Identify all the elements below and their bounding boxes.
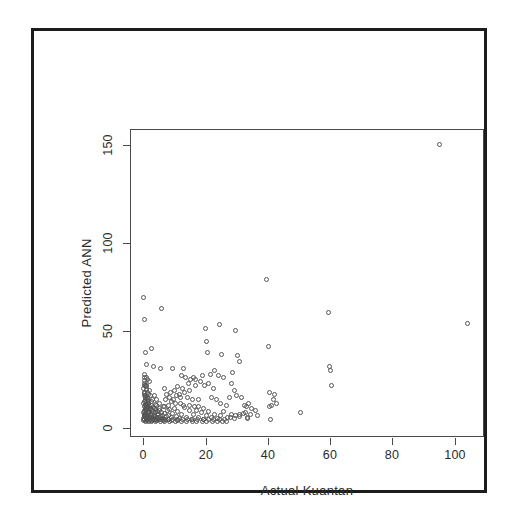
scatter-point xyxy=(266,344,271,349)
scatter-point xyxy=(190,397,195,402)
plot-panel xyxy=(130,129,484,437)
scatter-point xyxy=(187,403,192,408)
x-tick-mark-20 xyxy=(206,438,207,445)
scatter-point xyxy=(219,352,224,357)
scatter-point xyxy=(221,409,226,414)
scatter-point xyxy=(206,409,211,414)
scatter-point xyxy=(168,390,173,395)
scatter-point xyxy=(216,373,221,378)
scatter-point xyxy=(145,399,150,404)
x-tick-label-100: 100 xyxy=(444,448,465,462)
scatter-point xyxy=(163,397,168,402)
scatter-point xyxy=(144,383,149,388)
x-tick-label-20: 20 xyxy=(199,448,213,462)
scatter-point xyxy=(235,353,240,358)
scatter-point xyxy=(169,415,174,420)
scatter-point xyxy=(233,328,238,333)
x-tick-label-80: 80 xyxy=(385,448,399,462)
y-tick-label-100: 100 xyxy=(101,232,115,253)
scatter-point xyxy=(239,395,244,400)
x-tick-mark-100 xyxy=(455,438,456,445)
x-tick-label-40: 40 xyxy=(261,448,275,462)
scatter-point xyxy=(298,410,303,415)
scatter-point xyxy=(212,368,217,373)
scatter-point xyxy=(143,350,148,355)
y-tick-label-0: 0 xyxy=(101,424,115,431)
scatter-point xyxy=(182,405,187,410)
scatter-point xyxy=(218,401,223,406)
scatter-point xyxy=(187,388,192,393)
scatter-point xyxy=(162,386,167,391)
scatter-point xyxy=(142,317,147,322)
scatter-point xyxy=(208,372,213,377)
scatter-point xyxy=(185,395,190,400)
scatter-point xyxy=(232,388,237,393)
y-tick-mark-100 xyxy=(123,243,130,244)
scatter-point xyxy=(202,383,207,388)
scatter-point xyxy=(267,404,272,409)
scatter-point xyxy=(255,413,260,418)
figure-root: 150 100 50 0 0 20 40 60 80 100 Actual Ku… xyxy=(0,0,512,518)
scatter-point xyxy=(193,383,198,388)
y-tick-mark-150 xyxy=(123,145,130,146)
scatter-point xyxy=(253,408,258,413)
scatter-point xyxy=(145,390,150,395)
scatter-point xyxy=(217,322,222,327)
scatter-point xyxy=(158,366,163,371)
scatter-point xyxy=(170,366,175,371)
scatter-point xyxy=(224,403,229,408)
scatter-point xyxy=(328,368,333,373)
scatter-point xyxy=(178,395,183,400)
scatter-point xyxy=(230,370,235,375)
scatter-point xyxy=(437,142,442,147)
scatter-point xyxy=(274,401,279,406)
scatter-point xyxy=(203,326,208,331)
x-tick-mark-0 xyxy=(143,438,144,445)
scatter-point xyxy=(229,381,234,386)
scatter-point xyxy=(237,359,242,364)
scatter-point xyxy=(465,321,470,326)
scatter-point xyxy=(326,310,331,315)
scatter-point xyxy=(200,373,205,378)
scatter-points-layer xyxy=(131,130,483,436)
scatter-point xyxy=(204,339,209,344)
x-tick-label-0: 0 xyxy=(139,448,146,462)
x-tick-label-60: 60 xyxy=(323,448,337,462)
scatter-point xyxy=(246,401,251,406)
scatter-point xyxy=(205,350,210,355)
x-tick-mark-60 xyxy=(330,438,331,445)
y-tick-label-150: 150 xyxy=(101,134,115,155)
scatter-point xyxy=(268,417,273,422)
scatter-point xyxy=(151,364,156,369)
scatter-point xyxy=(144,362,149,367)
scatter-point xyxy=(221,375,226,380)
y-axis-title: Predicted ANN xyxy=(79,238,94,327)
scatter-point xyxy=(141,295,146,300)
scatter-point xyxy=(227,395,232,400)
y-tick-mark-50 xyxy=(123,331,130,332)
scatter-point xyxy=(241,411,246,416)
scatter-point xyxy=(245,416,250,421)
figure-outer-border: 150 100 50 0 0 20 40 60 80 100 Actual Ku… xyxy=(31,28,487,493)
y-tick-mark-0 xyxy=(123,428,130,429)
scatter-point xyxy=(182,390,187,395)
scatter-point xyxy=(211,386,216,391)
scatter-point xyxy=(149,346,154,351)
x-axis-title: Actual Kuantan xyxy=(261,483,353,498)
scatter-point xyxy=(181,366,186,371)
scatter-point xyxy=(264,277,269,282)
scatter-point xyxy=(196,397,201,402)
x-tick-mark-40 xyxy=(268,438,269,445)
scatter-point xyxy=(272,392,277,397)
x-tick-mark-80 xyxy=(392,438,393,445)
scatter-point xyxy=(159,306,164,311)
scatter-point xyxy=(329,383,334,388)
y-tick-label-50: 50 xyxy=(101,324,115,338)
